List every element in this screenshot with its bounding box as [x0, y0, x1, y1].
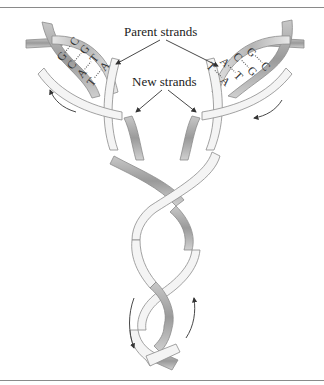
new-strand-pointer-right — [168, 90, 196, 112]
new-strands-label: New strands — [132, 74, 197, 89]
new-strand-pointer-left — [136, 90, 162, 112]
left-replication-fork — [26, 22, 144, 160]
double-helix — [110, 152, 220, 370]
parent-strand-pointer-right — [166, 40, 218, 66]
parent-strands-label: Parent strands — [124, 24, 197, 39]
dna-replication-diagram: G C C G A T T A G C C G A T T A — [0, 0, 324, 385]
parent-strand-pointer-left — [116, 40, 160, 64]
right-replication-fork — [180, 20, 304, 160]
